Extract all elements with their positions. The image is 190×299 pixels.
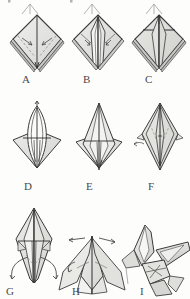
step-label-C: C [145,74,153,85]
step-label-I: I [140,286,144,297]
step-panel-F [132,100,188,174]
step-panel-B [69,12,127,74]
step-label-G: G [6,286,14,297]
step-panel-D [8,100,66,174]
step-label-B: B [83,74,91,85]
step-label-D: D [24,181,32,192]
step-panel-H [55,232,129,299]
diagram-sheet: A [0,0,190,299]
step-label-F: F [148,181,155,192]
step-panel-E [70,100,128,174]
step-label-E: E [86,181,93,192]
step-panel-C [130,12,188,74]
step-label-H: H [72,286,80,297]
step-label-A: A [22,74,30,85]
step-panel-A [8,12,66,74]
step-panel-I [120,222,190,299]
